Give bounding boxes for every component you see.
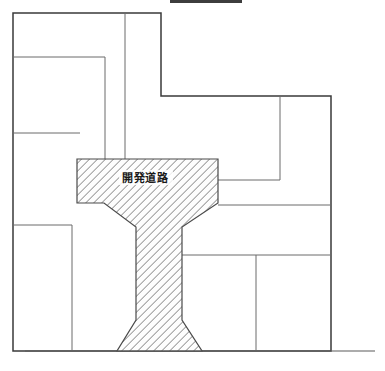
- development-road-label-group: 開発道路: [119, 170, 173, 185]
- top-bar-marker: [170, 0, 242, 3]
- site-plan-drawing: 開発道路: [0, 0, 385, 371]
- site-plan-canvas: 開発道路 開発道路 区画図 開発道路: [0, 0, 385, 371]
- top-bar-marker-group: [170, 0, 242, 3]
- development-road-label: 開発道路: [122, 171, 169, 185]
